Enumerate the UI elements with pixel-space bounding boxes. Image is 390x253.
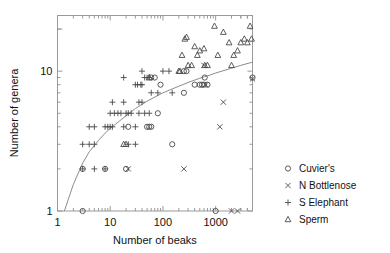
legend-label: S Elephant bbox=[299, 197, 348, 208]
x-tick-label: 1 bbox=[54, 216, 60, 228]
x-tick-label: 10 bbox=[104, 216, 116, 228]
scatter-chart: 1101001000 110 Number of beaks Number of… bbox=[0, 0, 390, 253]
y-tick-label: 10 bbox=[40, 65, 52, 77]
legend-label: Cuvier's bbox=[299, 163, 335, 174]
legend-label: Sperm bbox=[299, 214, 328, 225]
y-axis-title: Number of genera bbox=[8, 68, 20, 158]
x-tick-label: 1000 bbox=[203, 216, 227, 228]
legend-label: N Bottlenose bbox=[299, 180, 357, 191]
y-tick-label: 1 bbox=[46, 205, 52, 217]
x-axis-title: Number of beaks bbox=[113, 234, 197, 246]
x-tick-label: 100 bbox=[154, 216, 172, 228]
